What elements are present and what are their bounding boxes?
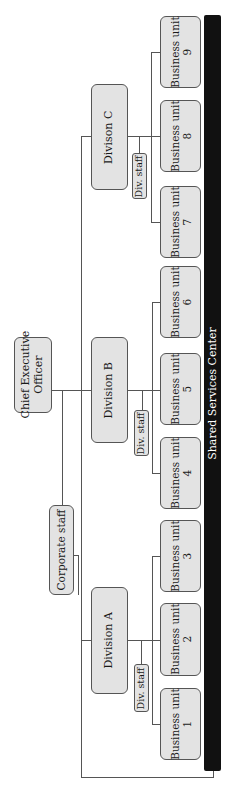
division-b-bus-line (128, 390, 161, 391)
division-a-staff-label: Div. staff (136, 667, 147, 709)
division-b-staff-label: Div. staff (136, 412, 147, 454)
ceo-to-corporate-staff-line (62, 390, 63, 505)
division-a-label: Division A (103, 612, 116, 668)
division-c-unit-rail (151, 52, 152, 222)
corporate-staff-side-vertical (78, 555, 79, 595)
trunk-to-division-c (81, 136, 91, 137)
division-a-staff-line (141, 640, 142, 664)
business-unit-4: Business unit4 (160, 437, 201, 509)
division-c-staff-label: Div. staff (134, 155, 145, 197)
corporate-staff-box: Corporate staff (49, 505, 74, 595)
business-unit-1: Business unit1 (160, 688, 201, 760)
division-b-staff-box: Div. staff (134, 410, 149, 456)
division-b-label: Division B (103, 362, 116, 419)
trunk-to-division-a (81, 640, 91, 641)
business-unit-3: Business unit3 (160, 520, 201, 592)
business-unit-8: Business unit8 (160, 100, 201, 172)
bar-return-line (213, 770, 214, 778)
division-c-staff-box: Div. staff (132, 153, 147, 199)
division-a-staff-box: Div. staff (134, 664, 149, 712)
shared-services-center-bar: Shared Services Center (204, 15, 221, 771)
division-c-bus-line (128, 136, 161, 137)
division-b-box: Division B (91, 337, 128, 443)
business-unit-5: Business unit5 (160, 353, 201, 425)
main-trunk-line (81, 136, 82, 777)
ceo-label: Chief ExecutiveOfficer (20, 331, 45, 419)
division-c-box: Divison C (91, 84, 128, 190)
business-unit-2: Business unit2 (160, 603, 201, 676)
trunk-to-division-b (81, 390, 91, 391)
division-a-bus-line (128, 640, 161, 641)
business-unit-9: Business unit9 (160, 16, 201, 88)
corporate-staff-label: Corporate staff (55, 510, 67, 591)
division-b-unit-rail (152, 302, 153, 473)
division-a-unit-rail (152, 556, 153, 724)
shared-services-center-label: Shared Services Center (206, 327, 219, 460)
business-unit-7: Business unit7 (160, 186, 201, 258)
ceo-to-trunk-line (52, 390, 81, 391)
bottom-return-line (81, 777, 214, 778)
ceo-box: Chief ExecutiveOfficer (14, 337, 52, 413)
division-c-label: Divison C (103, 110, 116, 163)
division-a-box: Division A (91, 587, 128, 694)
business-unit-6: Business unit6 (160, 266, 201, 338)
division-c-staff-line (139, 136, 140, 153)
division-b-staff-line (142, 390, 143, 410)
